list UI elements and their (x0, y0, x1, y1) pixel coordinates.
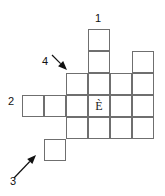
crossword-puzzle: È 1234 (0, 0, 165, 196)
arrow-3-icon (0, 0, 165, 196)
